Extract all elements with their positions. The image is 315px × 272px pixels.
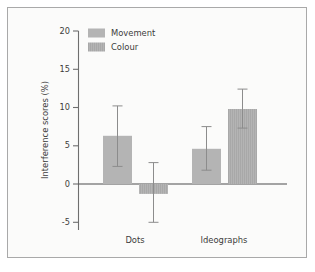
y-tick-label-10: 10 bbox=[60, 102, 70, 112]
x-category-label-ideographs: Ideographs bbox=[201, 235, 248, 245]
y-axis: 20 15 10 5 0 -5 Interference scores (%) bbox=[40, 26, 79, 231]
legend-label-movement: Movement bbox=[111, 28, 156, 38]
bar-chart-svg: 20 15 10 5 0 -5 Interference scores (%) bbox=[0, 0, 315, 272]
legend-entry-colour[interactable]: Colour bbox=[88, 42, 139, 52]
bar-group-dots: Dots bbox=[103, 106, 168, 245]
y-tick-label-neg5: -5 bbox=[62, 217, 70, 227]
y-tick-label-15: 15 bbox=[60, 64, 70, 74]
legend-entry-movement[interactable]: Movement bbox=[88, 28, 156, 38]
chart-legend: Movement Colour bbox=[88, 28, 156, 52]
legend-swatch-colour bbox=[88, 43, 105, 52]
legend-swatch-movement bbox=[88, 29, 105, 38]
y-tick-label-20: 20 bbox=[60, 26, 70, 36]
y-tick-label-5: 5 bbox=[65, 140, 70, 150]
y-axis-title: Interference scores (%) bbox=[40, 81, 50, 179]
chart-plot-area: 20 15 10 5 0 -5 Interference scores (%) bbox=[0, 0, 315, 272]
y-tick-label-0: 0 bbox=[65, 179, 70, 189]
bar-group-ideographs: Ideographs bbox=[192, 89, 257, 245]
x-category-label-dots: Dots bbox=[125, 235, 144, 245]
legend-label-colour: Colour bbox=[111, 42, 139, 52]
figure-container: 20 15 10 5 0 -5 Interference scores (%) bbox=[0, 0, 315, 272]
